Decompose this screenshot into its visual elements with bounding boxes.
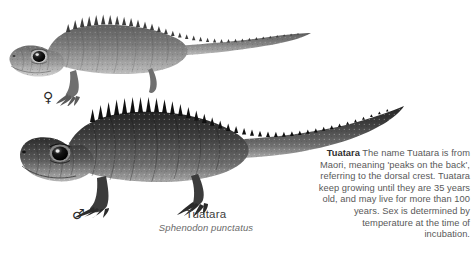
tuatara-fact-text: Tuatara The name Tuatara is from Maori, … <box>318 148 470 241</box>
species-scientific-name: Sphenodon punctatus <box>150 222 262 234</box>
species-caption: Tuatara Sphenodon punctatus <box>150 207 262 235</box>
male-sex-symbol: ♂ <box>72 207 85 221</box>
fact-lead-term: Tuatara <box>327 148 360 158</box>
species-common-name: Tuatara <box>150 207 262 221</box>
illustration-page: ♀ ♂ Tuatara Sphenodon punctatus Tuatara … <box>0 0 474 269</box>
fact-body-text: The name Tuatara is from Maori, meaning … <box>319 148 470 239</box>
female-sex-symbol: ♀ <box>43 90 53 104</box>
